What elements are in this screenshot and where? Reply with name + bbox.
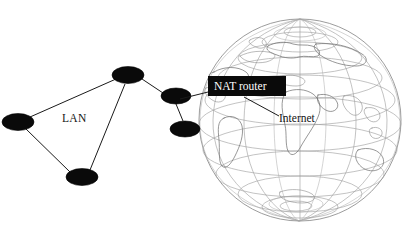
lan-label: LAN bbox=[62, 112, 87, 124]
link-top-to-nat-router bbox=[142, 79, 163, 93]
network-links bbox=[26, 79, 183, 172]
internet-label: Internet bbox=[279, 112, 316, 124]
diagram-canvas: LAN NAT router Internet bbox=[0, 0, 415, 248]
node-gateway[interactable] bbox=[170, 121, 200, 137]
node-lan-host-left[interactable] bbox=[2, 114, 34, 131]
link-nat-router-to-gateway bbox=[176, 104, 183, 121]
network-nodes bbox=[2, 67, 200, 186]
node-nat-router[interactable] bbox=[161, 88, 191, 104]
nat-router-label: NAT router bbox=[214, 80, 267, 92]
nat-router-callout[interactable]: NAT router bbox=[208, 76, 286, 96]
node-lan-host-bottom[interactable] bbox=[66, 169, 98, 186]
network-diagram: LAN NAT router Internet bbox=[0, 0, 415, 248]
link-lan-left-to-bottom bbox=[26, 129, 70, 172]
internet-leader-line bbox=[244, 97, 279, 116]
link-lan-bottom-to-top bbox=[90, 84, 125, 170]
node-lan-switch-top[interactable] bbox=[112, 67, 144, 84]
globe-pole-south bbox=[269, 196, 323, 212]
